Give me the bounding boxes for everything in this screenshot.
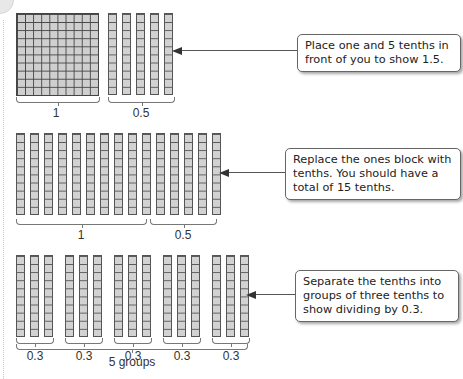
instruction-note: Place one and 5 tenths in front of you t… — [297, 34, 461, 72]
arrow-left-icon — [255, 294, 295, 295]
corner-decoration — [0, 0, 14, 14]
tenth-rod — [79, 255, 88, 337]
tenth-rod — [170, 133, 179, 215]
tenth-rod — [16, 255, 25, 337]
tenth-rod — [226, 255, 235, 337]
margin-dotted-line — [3, 20, 4, 379]
brace — [108, 97, 175, 103]
tenth-rod — [86, 133, 95, 215]
tenth-rod — [65, 255, 74, 337]
group-brace-label: 0.3 — [214, 349, 248, 363]
brace-label: 0.5 — [168, 228, 198, 242]
tenth-rod — [212, 255, 221, 337]
tenth-rod — [136, 13, 145, 95]
outer-brace-label: 5 groups — [100, 355, 164, 369]
group-brace-label: 0.3 — [165, 349, 199, 363]
diagram: 1 0.5 Place one and 5 tenths in front of… — [0, 0, 463, 379]
tenth-rod — [93, 255, 102, 337]
hundred-block — [16, 13, 99, 96]
tenth-rod — [191, 255, 200, 337]
tenth-rod — [72, 133, 81, 215]
brace-label: 0.5 — [126, 106, 156, 120]
arrow-left-icon — [181, 50, 297, 51]
tenth-rod — [114, 255, 123, 337]
tenth-rod — [142, 255, 151, 337]
tenth-rod — [44, 133, 53, 215]
instruction-note: Replace the ones block with tenths. You … — [285, 148, 461, 200]
brace — [150, 219, 217, 225]
tenth-rod — [150, 13, 159, 95]
tenth-rod — [128, 255, 137, 337]
tenth-rod — [122, 13, 131, 95]
brace-label: 1 — [71, 228, 91, 242]
group-brace-label: 0.3 — [67, 349, 101, 363]
tenth-rod — [198, 133, 207, 215]
tenth-rod — [142, 133, 151, 215]
brace — [16, 219, 147, 225]
tenth-rod — [58, 133, 67, 215]
tenth-rod — [177, 255, 186, 337]
arrow-left-icon — [228, 172, 285, 173]
tenth-rod — [44, 255, 53, 337]
tenth-rod — [16, 133, 25, 215]
brace-label: 1 — [46, 106, 66, 120]
tenth-rod — [30, 255, 39, 337]
tenth-rod — [184, 133, 193, 215]
tenth-rod — [128, 133, 137, 215]
tenth-rod — [30, 133, 39, 215]
tenth-rod — [114, 133, 123, 215]
group-brace-label: 0.3 — [18, 349, 52, 363]
instruction-note: Separate the tenths into groups of three… — [295, 270, 459, 322]
brace — [16, 97, 100, 103]
tenth-rod — [156, 133, 165, 215]
tenth-rod — [100, 133, 109, 215]
outer-brace — [16, 344, 248, 350]
tenth-rod — [163, 255, 172, 337]
tenth-rod — [108, 13, 117, 95]
